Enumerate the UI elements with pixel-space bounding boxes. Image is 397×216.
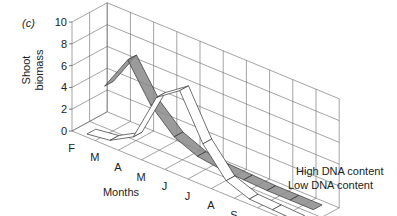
x-tick-label: M <box>90 151 99 163</box>
y-tick-label: 8 <box>61 38 67 50</box>
ribbon-segment <box>128 55 160 105</box>
x-axis-label: Months <box>103 186 140 198</box>
x-tick-label: A <box>114 161 122 173</box>
x-tick-label: J <box>162 180 168 192</box>
floor-gridline <box>304 208 339 216</box>
x-tick-label: M <box>137 171 146 183</box>
series-label-high-dna: High DNA content <box>296 165 383 177</box>
y-tick-label: 6 <box>61 60 67 72</box>
y-tick-label: 4 <box>61 81 67 93</box>
series-label-low-dna: Low DNA content <box>288 179 373 191</box>
ribbon-segment <box>290 195 322 209</box>
y-tick-label: 10 <box>55 16 67 28</box>
y-tick-label: 2 <box>61 103 67 115</box>
y-axis-label-line2: biomass <box>33 49 45 90</box>
x-tick-label: F <box>68 142 75 154</box>
y-axis-ticks: 0246810 <box>55 16 72 137</box>
x-tick-label: A <box>207 199 215 211</box>
x-tick-label: S <box>230 209 237 216</box>
x-tick-label: J <box>185 190 191 202</box>
chart: 0246810 FMAMJJASON (c) Shoot biomass Mon… <box>0 0 397 216</box>
series-labels: High DNA contentLow DNA content <box>288 165 383 191</box>
y-axis-label-line1: Shoot <box>20 56 32 85</box>
y-tick-label: 0 <box>61 125 67 137</box>
panel-label: (c) <box>22 17 35 29</box>
